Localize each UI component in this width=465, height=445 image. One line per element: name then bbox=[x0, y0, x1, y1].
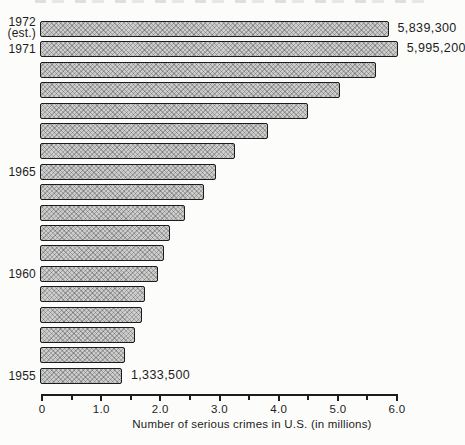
bar-value-label: 5,995,200 bbox=[407, 42, 465, 55]
x-axis-minor-tick bbox=[71, 394, 73, 400]
year-axis-label-line: 1965 bbox=[0, 166, 36, 178]
x-axis-minor-tick bbox=[366, 394, 368, 400]
bar-value-label: 5,839,300 bbox=[398, 22, 457, 35]
bar bbox=[40, 164, 216, 180]
x-axis-major-tick bbox=[337, 394, 339, 401]
x-axis-tick-label: 5.0 bbox=[329, 403, 346, 415]
x-axis-tick-label: 1.0 bbox=[93, 403, 110, 415]
x-axis-title: Number of serious crimes in U.S. (in mil… bbox=[132, 418, 371, 431]
x-axis-minor-tick bbox=[248, 394, 250, 400]
bar bbox=[40, 307, 142, 323]
year-axis-label-line: 1971 bbox=[0, 43, 36, 55]
year-axis-label: 1960 bbox=[0, 268, 36, 280]
bar bbox=[40, 62, 376, 78]
x-axis-major-tick bbox=[278, 394, 280, 401]
year-axis-label-line: 1960 bbox=[0, 268, 36, 280]
bar bbox=[40, 184, 204, 200]
bar bbox=[40, 103, 308, 119]
x-axis-tick-label: 0 bbox=[39, 403, 46, 415]
x-axis-minor-tick bbox=[130, 394, 132, 400]
x-axis-minor-tick bbox=[307, 394, 309, 400]
year-axis-label: 1965 bbox=[0, 166, 36, 178]
x-axis-major-tick bbox=[159, 394, 161, 401]
bar bbox=[40, 21, 389, 37]
bar bbox=[40, 327, 135, 343]
x-axis-tick-label: 3.0 bbox=[211, 403, 228, 415]
x-axis-tick-label: 6.0 bbox=[389, 403, 406, 415]
x-axis-tick-label: 4.0 bbox=[270, 403, 287, 415]
x-axis-minor-tick bbox=[189, 394, 191, 400]
x-axis-tick-label: 2.0 bbox=[152, 403, 169, 415]
bar bbox=[40, 368, 122, 384]
bar bbox=[40, 41, 398, 57]
bar bbox=[40, 245, 164, 261]
x-axis-major-tick bbox=[41, 394, 43, 401]
bar bbox=[40, 143, 235, 159]
bar bbox=[40, 266, 158, 282]
bar-value-label: 1,333,500 bbox=[131, 369, 190, 382]
year-axis-label: 1972(est.) bbox=[0, 17, 36, 38]
x-axis-major-tick bbox=[219, 394, 221, 401]
year-axis-label: 1971 bbox=[0, 43, 36, 55]
year-axis-label-line: 1955 bbox=[0, 370, 36, 382]
bar bbox=[40, 286, 145, 302]
bar bbox=[40, 123, 268, 139]
bar bbox=[40, 347, 125, 363]
crime-bar-chart: 1972(est.)1971196519601955 5,839,3005,99… bbox=[0, 0, 465, 445]
bar bbox=[40, 82, 340, 98]
bar bbox=[40, 225, 170, 241]
year-axis-label-line: (est.) bbox=[0, 28, 36, 39]
bar bbox=[40, 205, 185, 221]
cropped-text-artifact bbox=[35, 0, 427, 3]
year-axis-label: 1955 bbox=[0, 370, 36, 382]
x-axis-major-tick bbox=[396, 394, 398, 401]
x-axis-major-tick bbox=[100, 394, 102, 401]
